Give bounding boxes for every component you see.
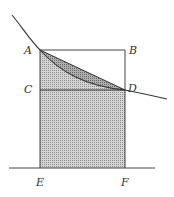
label-A: A <box>24 45 32 56</box>
label-B: B <box>129 45 137 56</box>
label-E: E <box>36 177 44 188</box>
label-F: F <box>121 177 129 188</box>
label-C: C <box>24 84 32 95</box>
geometry-figure <box>0 0 174 197</box>
diagram-canvas: A B C D E F <box>0 0 174 197</box>
region-under-curve <box>40 50 125 168</box>
label-D: D <box>128 83 137 94</box>
